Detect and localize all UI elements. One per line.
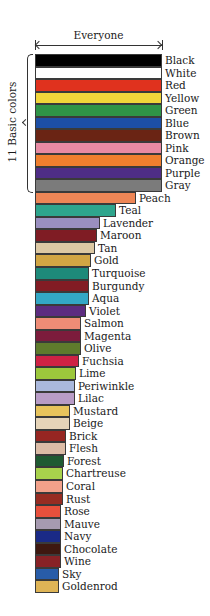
bar-forest <box>35 455 64 468</box>
bar-chocolate <box>35 543 61 556</box>
bar-label: Brown <box>165 129 200 142</box>
bar-yellow <box>35 92 162 105</box>
bar-label: Chartreuse <box>66 467 126 480</box>
bar-label: Flesh <box>69 442 98 455</box>
bar-fuchsia <box>35 355 79 368</box>
bar-violet <box>35 305 86 318</box>
bar-label: Tan <box>98 242 117 255</box>
bar-teal <box>35 204 116 217</box>
bar-label: Forest <box>67 455 101 468</box>
bar-green <box>35 104 162 117</box>
bar-lime <box>35 367 76 380</box>
bar-black <box>35 54 162 67</box>
bar-tan <box>35 242 95 255</box>
bar-rust <box>35 493 63 506</box>
bar-label: Aqua <box>92 292 119 305</box>
bar-mustard <box>35 405 70 418</box>
group-annotation: 11 Basic colors <box>6 82 18 163</box>
bar-periwinkle <box>35 380 75 393</box>
bar-label: Purple <box>165 167 200 180</box>
bar-white <box>35 67 162 80</box>
bar-flesh <box>35 442 66 455</box>
arrow-right-icon <box>154 41 162 49</box>
bar-aqua <box>35 292 89 305</box>
bar-label: Chocolate <box>64 543 117 556</box>
bar-rose <box>35 505 61 518</box>
bar-burgundy <box>35 280 89 293</box>
bar-label: Sky <box>62 568 82 581</box>
bar-blue <box>35 117 162 130</box>
bar-magenta <box>35 330 81 343</box>
bar-label: Rose <box>64 505 90 518</box>
bar-label: Navy <box>64 530 91 543</box>
bar-goldenrod <box>35 580 59 593</box>
bar-gold <box>35 254 91 267</box>
bar-label: Periwinkle <box>78 380 134 393</box>
bar-beige <box>35 417 70 430</box>
bar-label: Lime <box>79 367 106 380</box>
bar-label: Coral <box>66 480 95 493</box>
bar-label: Teal <box>119 204 141 217</box>
bar-label: Yellow <box>165 92 199 105</box>
bar-peach <box>35 192 136 205</box>
span-arrow-line <box>35 45 162 46</box>
bar-salmon <box>35 317 81 330</box>
bar-label: Blue <box>165 117 189 130</box>
bar-maroon <box>35 229 97 242</box>
bar-lilac <box>35 392 75 405</box>
bar-label: Mustard <box>73 405 118 418</box>
bar-label: Lavender <box>103 217 153 230</box>
bar-label: Black <box>165 54 195 67</box>
bar-label: Rust <box>66 493 90 506</box>
bar-gray <box>35 179 162 192</box>
bar-brown <box>35 129 162 142</box>
bar-label: Salmon <box>84 317 124 330</box>
bar-label: Green <box>165 104 198 117</box>
bar-label: Orange <box>165 154 205 167</box>
bar-label: Turquoise <box>92 267 146 280</box>
bar-label: Burgundy <box>92 280 144 293</box>
bar-brick <box>35 430 66 443</box>
bar-lavender <box>35 217 100 230</box>
bar-orange <box>35 154 162 167</box>
bar-label: Goldenrod <box>62 580 118 593</box>
bar-label: Beige <box>73 417 103 430</box>
bar-label: Olive <box>84 342 111 355</box>
bar-label: Mauve <box>64 518 100 531</box>
bar-label: Wine <box>64 555 91 568</box>
bar-turquoise <box>35 267 89 280</box>
bar-label: Magenta <box>84 330 131 343</box>
chart-area: Everyone 11 Basic colors BlackWhiteRedYe… <box>0 0 210 616</box>
bar-label: Brick <box>69 430 97 443</box>
bar-wine <box>35 555 61 568</box>
bar-olive <box>35 342 81 355</box>
bar-label: Fuchsia <box>82 355 124 368</box>
bar-label: Violet <box>89 305 120 318</box>
bar-sky <box>35 568 59 581</box>
bar-label: Gray <box>165 179 191 192</box>
bar-purple <box>35 167 162 180</box>
bar-label: Lilac <box>78 392 104 405</box>
top-annotation: Everyone <box>35 29 162 41</box>
bar-pink <box>35 142 162 155</box>
bar-mauve <box>35 518 61 531</box>
bar-coral <box>35 480 63 493</box>
bar-red <box>35 79 162 92</box>
bar-label: Pink <box>165 142 189 155</box>
bar-label: Maroon <box>100 229 141 242</box>
bar-label: White <box>165 67 196 80</box>
bar-label: Gold <box>94 254 119 267</box>
bar-label: Peach <box>139 192 171 205</box>
bar-navy <box>35 530 61 543</box>
bar-chartreuse <box>35 467 63 480</box>
arrow-left-icon <box>35 41 43 49</box>
bar-label: Red <box>165 79 186 92</box>
